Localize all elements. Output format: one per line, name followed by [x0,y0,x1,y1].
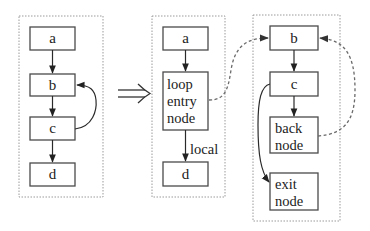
node-label-line-2: node [275,137,303,153]
node-label: a [49,30,56,46]
right-node-c: c [270,72,318,96]
loop-transformation-diagram: a b c d a loop en [0,0,370,231]
transform-arrow-icon [118,84,150,103]
right-node-back: back node [270,117,318,153]
node-label: c [49,120,56,136]
node-label-line-1: back [275,120,303,136]
node-label: d [182,166,190,182]
node-label-line-3: node [167,110,195,126]
left-graph: a b c d [19,16,103,197]
node-label-line-1: exit [275,176,297,192]
middle-graph: a loop entry node d local [152,16,225,197]
left-node-d: d [30,163,75,186]
left-node-c: c [30,117,75,140]
node-label: a [182,30,189,46]
node-label-line-2: entry [167,93,198,109]
right-graph: b c back node exit node [253,15,355,221]
middle-node-a: a [163,27,208,50]
node-label: b [290,30,298,46]
right-node-exit: exit node [270,173,318,210]
left-node-a: a [30,27,75,50]
node-label-line-1: loop [167,76,193,92]
node-label: b [49,77,57,93]
cross-edge-loop-entry-to-b [209,38,268,100]
edge-c-to-exit-node [258,84,270,182]
middle-node-loop-entry: loop entry node [163,72,208,130]
dashed-edge-back-node-to-b [318,38,355,136]
back-edge-c-to-b [75,85,96,129]
middle-node-d: d [163,162,208,186]
node-label: d [49,166,57,182]
edge-label-local: local [190,141,218,157]
right-node-b: b [270,26,318,50]
node-label: c [291,76,298,92]
node-label-line-2: node [275,193,303,209]
left-node-b: b [30,74,75,96]
